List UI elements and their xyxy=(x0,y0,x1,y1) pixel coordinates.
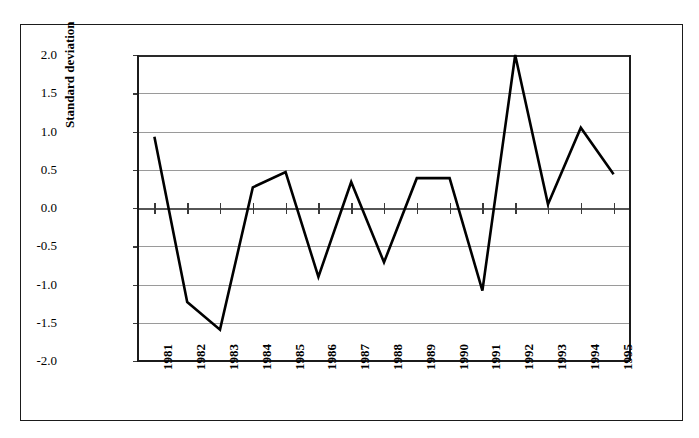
chart-figure: Standard deviation 2.01.51.00.50.0-0.5-1… xyxy=(0,0,699,438)
series-line-chart xyxy=(138,55,630,361)
x-tick-label: 1993 xyxy=(554,344,570,370)
x-tick-label: 1989 xyxy=(423,344,439,370)
y-tick-label: -1.0 xyxy=(15,278,57,291)
x-tick-label: 1995 xyxy=(620,344,636,370)
x-tick-label: 1990 xyxy=(456,344,472,370)
series-line-path xyxy=(154,55,613,330)
y-tick-label: -2.0 xyxy=(15,354,57,367)
y-tick-label: 0.0 xyxy=(15,201,57,214)
x-tick-label: 1984 xyxy=(259,344,275,370)
y-tick-label: -0.5 xyxy=(15,239,57,252)
x-tick-label: 1983 xyxy=(226,344,242,370)
x-tick-label: 1988 xyxy=(390,344,406,370)
x-tick-label: 1994 xyxy=(587,344,603,370)
y-tick-label: 2.0 xyxy=(15,48,57,61)
plot-area xyxy=(138,55,630,361)
x-tick-label: 1987 xyxy=(357,344,373,370)
x-tick-label: 1992 xyxy=(521,344,537,370)
y-tick-label: 1.5 xyxy=(15,86,57,99)
x-tick-label: 1985 xyxy=(292,344,308,370)
x-tick-label: 1981 xyxy=(160,344,176,370)
y-tick-label: 1.0 xyxy=(15,125,57,138)
x-tick-label: 1991 xyxy=(488,344,504,370)
y-tick-label: 0.5 xyxy=(15,163,57,176)
y-tick-label: -1.5 xyxy=(15,316,57,329)
y-axis-title: Standard deviation xyxy=(62,0,78,128)
x-tick-label: 1986 xyxy=(324,344,340,370)
x-tick-label: 1982 xyxy=(193,344,209,370)
